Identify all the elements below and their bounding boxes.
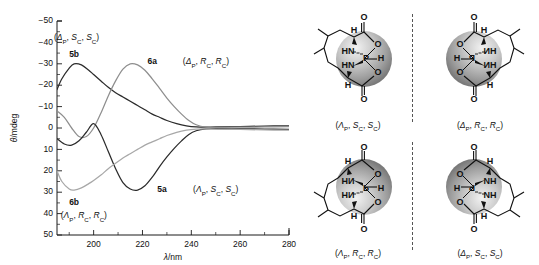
curve-descriptor: (ΛP, SC, SC)	[193, 184, 238, 197]
y-tick-label: 0	[48, 122, 53, 132]
curve-label-6a: 6a	[148, 56, 158, 66]
x-tick-label: 240	[184, 239, 198, 249]
structure-lambda-p-sc-sc: (ΛP, SC, SC)	[302, 4, 414, 134]
curve-6b	[57, 129, 289, 190]
x-tick-label: 220	[135, 239, 149, 249]
y-tick-label: 50	[44, 229, 54, 239]
curve-label-6b: 6b	[69, 197, 79, 207]
structure-diagram	[302, 4, 414, 114]
structure-caption: (ΔP, SC, SC)	[424, 248, 536, 260]
curve-label-5b: 5b	[69, 49, 79, 59]
x-tick-label: 200	[87, 239, 101, 249]
y-tick-label: −40	[39, 37, 54, 47]
y-tick-label: 20	[44, 165, 54, 175]
structure-diagram	[424, 4, 536, 114]
y-axis-ticks: 50403020100−10−20−30−40−50	[39, 15, 62, 239]
y-tick-label: 10	[44, 144, 54, 154]
curve-label-5a: 5a	[157, 184, 167, 194]
curve-descriptor: (ΛP, RC, RC)	[61, 210, 107, 223]
curve-group	[57, 64, 289, 191]
y-tick-label: 40	[44, 208, 54, 218]
structure-caption: (ΛP, RC, RC)	[302, 248, 414, 260]
cd-spectra-figure: 50403020100−10−20−30−40−50 2002202402602…	[0, 0, 539, 265]
curve-6a	[57, 64, 289, 138]
y-tick-label: −20	[39, 79, 54, 89]
molecular-structures-panel: (ΛP, SC, SC) (ΔP, RC, RC) (ΛP, RC, RC) (…	[300, 0, 539, 265]
curve-descriptor: (ΔP, SC, SC)	[54, 32, 99, 45]
cd-spectra-plot: 50403020100−10−20−30−40−50 2002202402602…	[0, 0, 300, 265]
structure-delta-p-rc-rc: (ΔP, RC, RC)	[424, 4, 536, 134]
x-tick-label: 260	[233, 239, 247, 249]
structure-lambda-p-rc-rc: (ΛP, RC, RC)	[302, 132, 414, 262]
y-tick-label: −50	[39, 15, 54, 25]
structure-diagram	[424, 132, 536, 242]
structure-delta-p-sc-sc: (ΔP, SC, SC)	[424, 132, 536, 262]
structure-caption: (ΔP, RC, RC)	[424, 120, 536, 132]
y-tick-label: −30	[39, 58, 54, 68]
y-tick-label: −10	[39, 101, 54, 111]
x-tick-label: 280	[282, 239, 296, 249]
axis-frame	[57, 21, 289, 235]
x-axis-title: λ/nm	[163, 252, 182, 262]
plot-svg: 50403020100−10−20−30−40−50 2002202402602…	[0, 0, 300, 265]
x-axis-ticks: 200220240260280	[69, 230, 296, 249]
y-axis-title: θ/mdeg	[9, 114, 19, 143]
curve-descriptor: (ΔP, RC, RC)	[183, 56, 229, 69]
y-tick-label: 30	[44, 186, 54, 196]
structure-diagram	[302, 132, 414, 242]
structure-caption: (ΛP, SC, SC)	[302, 120, 414, 132]
curve-5b	[57, 64, 289, 128]
